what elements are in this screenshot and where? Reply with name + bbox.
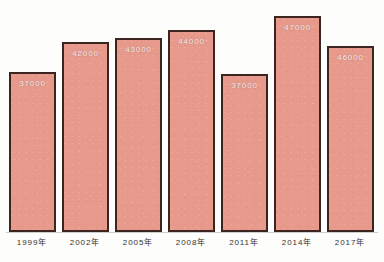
bar-value-label: 43000	[117, 45, 160, 54]
bar-group: 37000	[9, 72, 56, 232]
bar-value-label: 47000	[276, 23, 319, 32]
category-label-1999: 1999年	[4, 236, 60, 247]
bar-2005[interactable]: 43000	[115, 38, 162, 232]
bar-chart: ···· ··· ···· 37000 42000 43000 44000 37…	[0, 0, 384, 262]
bar-group: 47000	[274, 16, 321, 232]
bar-value-label: 44000	[170, 37, 213, 46]
category-label-2005: 2005年	[110, 236, 166, 247]
bar-group: 37000	[221, 74, 268, 232]
bar-2017[interactable]: 46000	[327, 46, 374, 232]
bar-value-label: 37000	[11, 79, 54, 88]
category-label-2011: 2011年	[216, 236, 272, 247]
bar-2014[interactable]: 47000	[274, 16, 321, 232]
axis-baseline	[6, 232, 378, 233]
category-label-2014: 2014年	[269, 236, 325, 247]
bar-group: 46000	[327, 46, 374, 232]
bar-value-label: 46000	[329, 53, 372, 62]
bar-2011[interactable]: 37000	[221, 74, 268, 232]
bar-group: 43000	[115, 38, 162, 232]
bar-value-label: 42000	[64, 49, 107, 58]
bar-group: 42000	[62, 42, 109, 232]
category-label-2017: 2017年	[322, 236, 378, 247]
bar-2008[interactable]: 44000	[168, 30, 215, 232]
bar-group: 44000	[168, 30, 215, 232]
category-label-2002: 2002年	[57, 236, 113, 247]
category-label-2008: 2008年	[163, 236, 219, 247]
bar-2002[interactable]: 42000	[62, 42, 109, 232]
bar-value-label: 37000	[223, 81, 266, 90]
plot-area: 37000 42000 43000 44000 37000 47000	[0, 0, 384, 232]
bar-1999[interactable]: 37000	[9, 72, 56, 232]
category-axis: 1999年 2002年 2005年 2008年 2011年 2014年 2017…	[0, 236, 384, 256]
